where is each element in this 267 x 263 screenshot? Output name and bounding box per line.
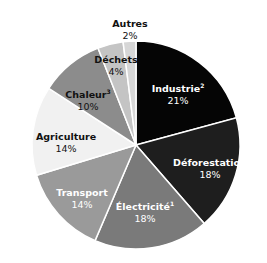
slice-label: Électricité1 [116,200,174,212]
slice-label: Chaleur3 [65,88,110,100]
slice-percent: 14% [71,199,92,210]
slice-percent: 21% [167,95,188,106]
slice-label: Autres [112,18,148,29]
slice-percent: 18% [134,213,155,224]
slice-percent: 4% [108,66,123,77]
slice-label: Agriculture [36,131,96,142]
pie-chart: Industrie221%Déforestation18%Électricité… [0,0,267,263]
slice-percent: 18% [199,169,220,180]
slice-label: Industrie2 [152,82,205,94]
slice-percent: 14% [55,143,76,154]
slice-label: Transport [56,187,108,198]
slice-percent: 2% [122,30,137,41]
slice-label: Déforestation [173,157,247,168]
slice-percent: 10% [77,101,98,112]
slice-label: Déchets [94,54,138,65]
